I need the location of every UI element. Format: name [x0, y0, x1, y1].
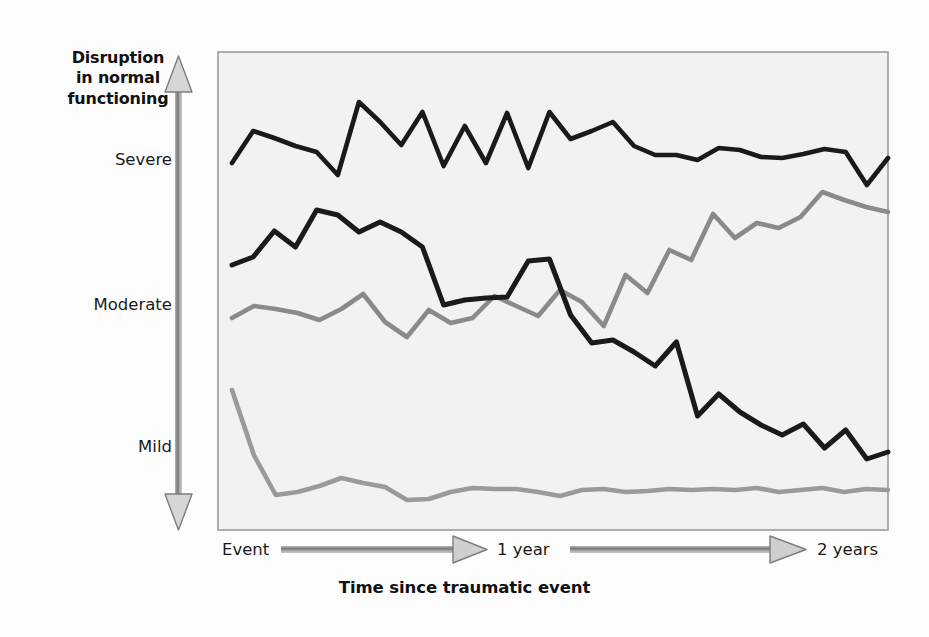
chart-canvas	[0, 0, 929, 637]
x-axis-arrow-event-to-one-year	[281, 536, 487, 563]
x-axis-arrow-one-year-to-two-years	[570, 536, 806, 563]
y-axis-arrow	[165, 56, 192, 530]
plot-area-frame	[218, 52, 888, 530]
chart-page: Disruption in normal functioning Severe …	[0, 0, 929, 637]
